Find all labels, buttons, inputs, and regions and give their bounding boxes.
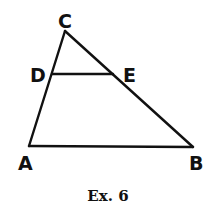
segment-AB bbox=[29, 146, 193, 147]
vertex-label-A: A bbox=[18, 152, 33, 174]
vertex-label-C: C bbox=[58, 10, 72, 32]
vertex-label-D: D bbox=[30, 64, 46, 86]
figure-caption: Ex. 6 bbox=[87, 187, 128, 205]
triangle-diagram: C D E A B Ex. 6 bbox=[0, 0, 217, 210]
segment-CB bbox=[65, 31, 193, 147]
vertex-label-E: E bbox=[123, 64, 136, 86]
vertex-label-B: B bbox=[189, 152, 203, 174]
segment-AC bbox=[29, 31, 65, 146]
